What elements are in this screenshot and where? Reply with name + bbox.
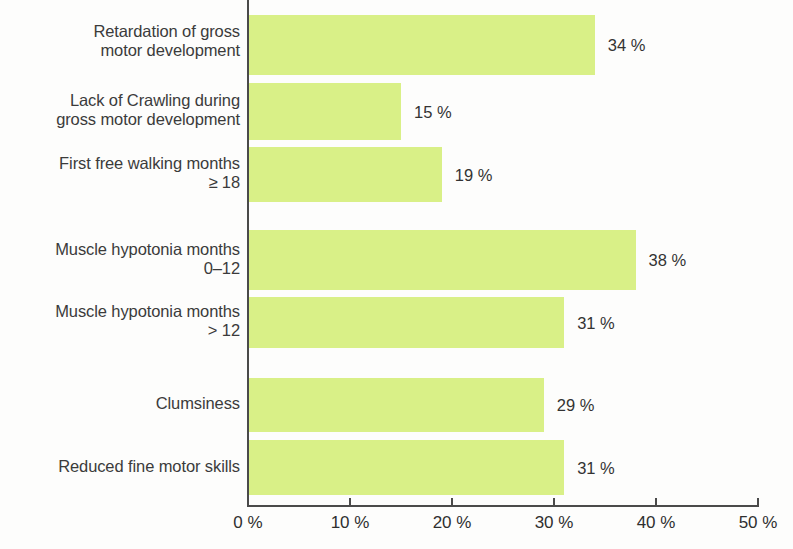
category-label: Retardation of gross motor development	[0, 22, 240, 60]
category-label: Muscle hypotonia months > 12	[0, 302, 240, 340]
category-label: First free walking months ≥ 18	[0, 154, 240, 192]
bar	[248, 378, 544, 432]
x-axis-tick-label: 20 %	[433, 514, 472, 531]
bar	[248, 15, 595, 75]
bar	[248, 147, 442, 202]
x-axis-tick-label: 50 %	[739, 514, 778, 531]
x-axis-tick	[757, 498, 759, 507]
x-axis-tick	[349, 498, 351, 507]
bar-value-label: 31 %	[577, 315, 615, 332]
x-axis-tick-label: 30 %	[535, 514, 574, 531]
bar-value-label: 38 %	[649, 252, 687, 269]
x-axis-tick-label: 40 %	[637, 514, 676, 531]
bar-value-label: 34 %	[608, 37, 646, 54]
x-axis-tick	[451, 498, 453, 507]
bar-chart: Retardation of gross motor developmentLa…	[0, 0, 793, 549]
bar	[248, 297, 564, 348]
bar-value-label: 29 %	[557, 397, 595, 414]
category-label: Muscle hypotonia months 0–12	[0, 240, 240, 278]
bar-value-label: 19 %	[455, 167, 493, 184]
category-label: Reduced fine motor skills	[0, 457, 240, 476]
category-label: Lack of Crawling during gross motor deve…	[0, 91, 240, 129]
bar-value-label: 31 %	[577, 460, 615, 477]
x-axis-tick	[553, 498, 555, 507]
bar	[248, 440, 564, 495]
plot-area: 34 %15 %19 %38 %31 %29 %31 %	[248, 0, 760, 506]
bar	[248, 83, 401, 140]
bar	[248, 230, 636, 290]
x-axis-tick-label: 10 %	[331, 514, 370, 531]
x-axis-tick	[655, 498, 657, 507]
x-axis-tick	[247, 498, 249, 507]
category-label: Clumsiness	[0, 394, 240, 413]
bar-value-label: 15 %	[414, 104, 452, 121]
x-axis-tick-label: 0 %	[233, 514, 262, 531]
y-axis-line	[247, 0, 249, 506]
x-axis-line	[247, 505, 759, 507]
